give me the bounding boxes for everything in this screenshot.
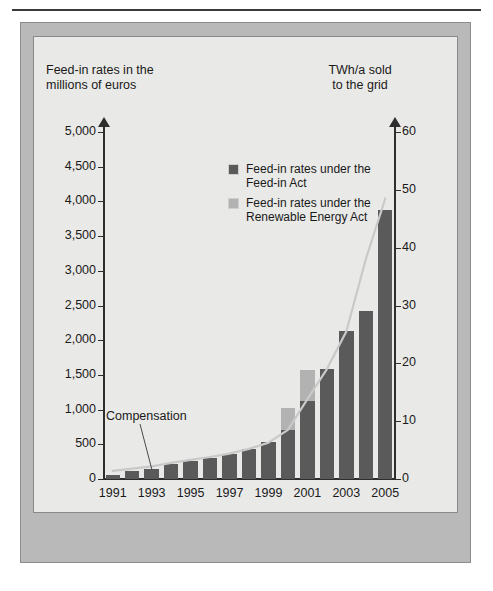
compensation-leader-line <box>140 424 152 470</box>
line-series-overlay <box>0 0 493 591</box>
legend-item-renewable-energy-act: Feed-in rates under the Renewable Energy… <box>228 196 398 224</box>
legend-swatch-icon-feed-in-act <box>228 164 239 175</box>
line-series-twh-sold <box>113 199 386 471</box>
compensation-annotation: Compensation <box>106 409 187 423</box>
chart-legend: Feed-in rates under the Feed-in Act Feed… <box>228 162 398 230</box>
legend-label-renewable-energy-act: Feed-in rates under the Renewable Energy… <box>246 196 371 224</box>
legend-swatch-icon-renewable-energy-act <box>228 198 239 209</box>
figure-page: Feed-in rates in the millions of euros T… <box>0 0 493 591</box>
legend-label-feed-in-act: Feed-in rates under the Feed-in Act <box>246 162 371 190</box>
legend-item-feed-in-act: Feed-in rates under the Feed-in Act <box>228 162 398 190</box>
